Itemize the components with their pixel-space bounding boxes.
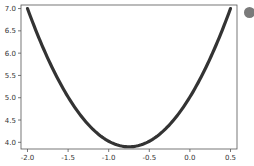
y-tick-label: 7.0	[5, 5, 16, 13]
x-tick-label: -1.0	[102, 154, 116, 162]
y-tick-label: 6.0	[5, 50, 16, 58]
axes-frame	[21, 5, 237, 149]
x-tick-label: 0.5	[225, 154, 236, 162]
x-tick-label: 0.0	[184, 154, 195, 162]
x-tick-label: -1.5	[61, 154, 75, 162]
y-tick-label: 4.0	[5, 139, 16, 147]
x-tick-label: -2.0	[21, 154, 35, 162]
plot-area: -2.0-1.5-1.0-0.50.00.54.04.55.05.56.06.5…	[5, 5, 237, 162]
y-tick-label: 5.0	[5, 94, 16, 102]
line-chart: -2.0-1.5-1.0-0.50.00.54.04.55.05.56.06.5…	[0, 0, 254, 166]
y-tick-label: 4.5	[5, 117, 16, 125]
circle-icon[interactable]	[244, 7, 254, 18]
x-tick-label: -0.5	[142, 154, 156, 162]
y-tick-label: 6.5	[5, 27, 16, 35]
y-tick-label: 5.5	[5, 72, 16, 80]
data-curve	[27, 9, 230, 147]
